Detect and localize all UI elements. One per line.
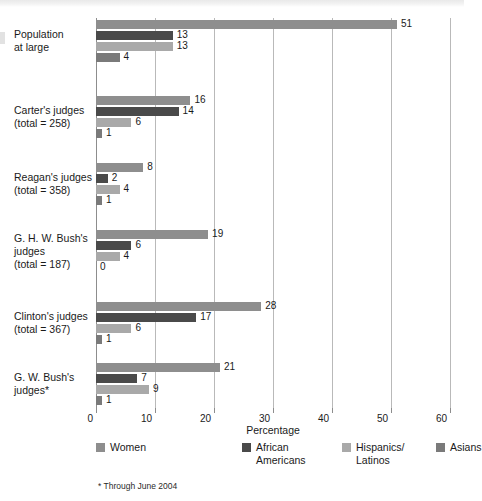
bar (96, 335, 102, 344)
bar (96, 302, 261, 311)
bar (96, 396, 102, 405)
bar (96, 53, 120, 62)
bar-row: 14 (96, 107, 450, 116)
bar (96, 42, 173, 51)
bar-row: 4 (96, 53, 450, 62)
legend-swatch (436, 443, 445, 452)
category-label: Clinton's judges(total = 367) (14, 310, 92, 336)
bar-value-label: 1 (106, 193, 112, 207)
bar (96, 196, 102, 205)
x-axis-title: Percentage (96, 424, 450, 436)
x-tick-mark (155, 408, 156, 413)
bar-group: 19640 (96, 230, 450, 274)
x-tick-label: 0 (87, 412, 96, 425)
bar-row: 28 (96, 302, 450, 311)
gridline-50 (391, 18, 392, 408)
legend-swatch (242, 443, 251, 452)
bar-value-label: 17 (200, 310, 211, 324)
bar-row: 0 (96, 263, 450, 272)
bar-value-label: 9 (153, 382, 159, 396)
bar-row: 7 (96, 374, 450, 383)
bar-group: 8241 (96, 163, 450, 207)
gridline-20 (214, 18, 215, 408)
bar-row: 9 (96, 385, 450, 394)
bar-value-label: 6 (135, 115, 141, 129)
bar-row: 1 (96, 129, 450, 138)
bar (96, 174, 108, 183)
legend-label: Women (110, 441, 146, 454)
bar-row: 6 (96, 324, 450, 333)
legend-swatch (342, 443, 351, 452)
legend-item: Asians (436, 441, 482, 454)
bar (96, 313, 196, 322)
x-tick-mark (332, 408, 333, 413)
bar (96, 374, 137, 383)
category-label: Carter's judges(total = 258) (14, 104, 92, 130)
bar-value-label: 4 (124, 249, 130, 263)
chart-legend: WomenAfrican AmericansHispanics/ Latinos… (96, 441, 464, 473)
legend-label: Asians (450, 441, 482, 454)
bar-value-label: 1 (106, 126, 112, 140)
bar-value-label: 1 (106, 332, 112, 346)
bar-group: 161461 (96, 96, 450, 140)
plot-area: 511313416146182411964028176121791 (96, 18, 450, 408)
bar (96, 363, 220, 372)
bar-value-label: 51 (401, 17, 412, 31)
x-tick-mark (273, 408, 274, 413)
bar (96, 385, 149, 394)
bar-value-label: 19 (212, 227, 223, 241)
bar-row: 8 (96, 163, 450, 172)
bar-row: 1 (96, 335, 450, 344)
bar-value-label: 1 (106, 393, 112, 407)
bar-row: 1 (96, 396, 450, 405)
category-label: G. W. Bush'sjudges* (14, 371, 92, 397)
bar-value-label: 8 (147, 160, 153, 174)
bar-group: 21791 (96, 363, 450, 407)
bar (96, 31, 173, 40)
bar-value-label: 16 (194, 93, 205, 107)
bar (96, 96, 190, 105)
bar-group: 5113134 (96, 20, 450, 64)
bar-row: 13 (96, 42, 450, 51)
bar (96, 129, 102, 138)
bar-value-label: 4 (124, 50, 130, 64)
bar-row: 1 (96, 196, 450, 205)
bar-row: 4 (96, 252, 450, 261)
bar-group: 281761 (96, 302, 450, 346)
bar-value-label: 0 (100, 260, 106, 274)
category-label: Populationat large (14, 28, 92, 54)
x-tick-mark (96, 408, 97, 413)
bar-value-label: 2 (112, 171, 118, 185)
bar-value-label: 14 (183, 104, 194, 118)
bar-value-label: 6 (135, 238, 141, 252)
bar-row: 51 (96, 20, 450, 29)
legend-label: Hispanics/ Latinos (356, 441, 404, 466)
bar (96, 230, 208, 239)
x-tick-mark (214, 408, 215, 413)
bar-row: 2 (96, 174, 450, 183)
gridline-60 (450, 18, 451, 408)
bar-value-label: 21 (224, 360, 235, 374)
bar-row: 6 (96, 241, 450, 250)
gridline-10 (155, 18, 156, 408)
bar-row: 6 (96, 118, 450, 127)
bar (96, 163, 143, 172)
legend-swatch (96, 443, 105, 452)
gridline-40 (332, 18, 333, 408)
bar (96, 118, 131, 127)
bar-row: 21 (96, 363, 450, 372)
bar (96, 20, 397, 29)
legend-label: African Americans (256, 441, 306, 466)
bar-value-label: 28 (265, 299, 276, 313)
legend-item: Women (96, 441, 146, 454)
category-label: G. H. W. Bush'sjudges(total = 187) (14, 232, 92, 271)
bar-value-label: 4 (124, 182, 130, 196)
bar-row: 17 (96, 313, 450, 322)
bar-value-label: 13 (177, 39, 188, 53)
category-label: Reagan's judges(total = 358) (14, 171, 92, 197)
x-tick-mark (391, 408, 392, 413)
bar-row: 19 (96, 230, 450, 239)
bar-row: 13 (96, 31, 450, 40)
legend-item: Hispanics/ Latinos (342, 441, 404, 466)
